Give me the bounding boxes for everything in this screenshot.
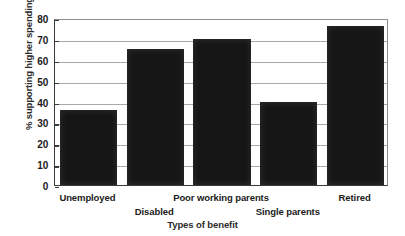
y-tick-label: 60: [37, 55, 48, 66]
bar: [127, 49, 184, 185]
x-tick-label: Unemployed: [59, 192, 115, 203]
bar-series: [55, 20, 387, 185]
bar: [60, 110, 117, 185]
x-tick-label: Disabled: [135, 206, 174, 217]
plot-area: [54, 19, 388, 186]
y-tick-label: 80: [37, 14, 48, 25]
bar: [193, 39, 250, 185]
x-tick-label: Retired: [339, 192, 371, 203]
bar: [327, 26, 384, 185]
bar: [260, 102, 317, 186]
y-tick-label: 50: [37, 76, 48, 87]
y-tick-label: 10: [37, 160, 48, 171]
y-tick-label: 20: [37, 139, 48, 150]
chart-figure: % supporting higher spending 01020304050…: [0, 0, 405, 236]
y-tick-label: 30: [37, 118, 48, 129]
x-tick-label: Single parents: [256, 206, 320, 217]
y-axis-tick-labels: 01020304050607080: [0, 0, 56, 236]
y-tick-label: 70: [37, 34, 48, 45]
x-axis-title: Types of benefit: [0, 219, 405, 230]
x-tick-label: Poor working parents: [173, 192, 269, 203]
y-tick-label: 0: [43, 181, 48, 192]
y-tick-label: 40: [37, 97, 48, 108]
